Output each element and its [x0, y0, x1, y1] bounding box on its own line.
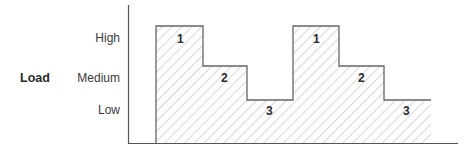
- step-label-cycle1-3: 3: [266, 104, 273, 118]
- step-label-cycle2-2: 2: [358, 71, 365, 85]
- step-label-cycle1-1: 1: [177, 32, 184, 46]
- step-label-cycle1-2: 2: [221, 71, 228, 85]
- load-step-diagram: 1 2 3 1 2 3: [0, 0, 474, 153]
- step-label-cycle2-1: 1: [313, 32, 320, 46]
- step-label-cycle2-3: 3: [403, 104, 410, 118]
